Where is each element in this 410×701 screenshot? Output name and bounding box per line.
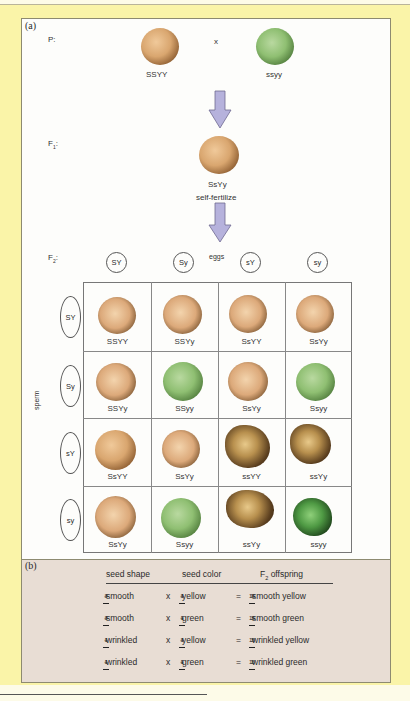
- grid-divider: [83, 486, 352, 487]
- parent-left-genotype: SSYY: [146, 70, 167, 79]
- grid-divider: [83, 351, 352, 352]
- f1-seed: [199, 136, 239, 174]
- offspring-genotype: SsYy: [84, 540, 151, 549]
- parent-right-genotype: ssyy: [266, 70, 282, 79]
- sperm-gamete-sY: sY: [60, 432, 81, 474]
- parent-seed-wrinkled-green: [256, 28, 294, 65]
- f1-generation-label: F1:: [48, 139, 58, 150]
- offspring-seed: [163, 362, 203, 401]
- offspring-seed: [225, 425, 270, 468]
- offspring-seed: [162, 430, 200, 468]
- offspring-genotype: ssYY: [218, 472, 285, 481]
- offspring-seed: [96, 363, 136, 401]
- offspring-genotype: ssYy: [218, 540, 285, 549]
- sperm-gamete-sy: sy: [60, 499, 81, 541]
- offspring-genotype: SsYy: [151, 472, 218, 481]
- offspring-seed: [161, 498, 201, 538]
- sperm-label: sperm: [33, 391, 40, 410]
- offspring-genotype: ssyy: [285, 540, 352, 549]
- offspring-seed: [229, 295, 267, 333]
- egg-gamete-sy: sy: [307, 252, 328, 273]
- offspring-genotype: SSYY: [84, 337, 151, 346]
- offspring-seed: [293, 498, 332, 536]
- offspring-genotype: ssYy: [285, 472, 352, 481]
- offspring-seed: [98, 297, 136, 334]
- eggs-label: eggs: [209, 253, 224, 260]
- offspring-genotype: SsYy: [218, 404, 285, 413]
- offspring-genotype: SsYY: [218, 337, 285, 346]
- arrow-down-icon: [208, 202, 232, 244]
- panel-b-tag: (b): [25, 560, 37, 571]
- panel-a-tag: (a): [25, 20, 36, 31]
- arrow-down-icon: [208, 90, 232, 130]
- egg-gamete-SY: SY: [106, 252, 127, 273]
- f2-generation-label: F2:: [48, 253, 58, 264]
- header-seed-shape: seed shape: [106, 569, 150, 579]
- self-fertilize-label: self-fertilize: [196, 193, 236, 202]
- header-f2-offspring: F2 offspring: [260, 569, 303, 581]
- footnote-rule: [0, 694, 207, 695]
- sperm-gamete-SY: SY: [60, 296, 81, 338]
- offspring-seed: [95, 430, 136, 470]
- offspring-genotype: SSyy: [151, 404, 218, 413]
- p-generation-label: P:: [48, 35, 56, 44]
- offspring-genotype: Ssyy: [151, 540, 218, 549]
- grid-divider: [83, 418, 352, 419]
- egg-gamete-sY: sY: [240, 252, 261, 273]
- offspring-seed: [95, 496, 136, 538]
- egg-gamete-Sy: Sy: [173, 252, 194, 273]
- offspring-seed: [296, 363, 335, 401]
- offspring-seed: [290, 424, 331, 464]
- parent-seed-smooth-yellow: [141, 28, 179, 65]
- offspring-genotype: SSYy: [151, 337, 218, 346]
- cross-symbol: x: [214, 37, 218, 46]
- header-rule: [106, 583, 333, 584]
- offspring-seed: [163, 295, 202, 334]
- offspring-seed: [228, 362, 268, 401]
- offspring-genotype: Ssyy: [285, 404, 352, 413]
- offspring-seed: [226, 490, 274, 528]
- offspring-seed: [296, 295, 334, 333]
- header-seed-color: seed color: [182, 569, 221, 579]
- offspring-genotype: SSYy: [84, 404, 151, 413]
- offspring-genotype: SsYY: [84, 472, 151, 481]
- sperm-gamete-Sy: Sy: [60, 365, 81, 407]
- offspring-genotype: SsYy: [285, 337, 352, 346]
- f1-genotype: SsYy: [208, 180, 227, 189]
